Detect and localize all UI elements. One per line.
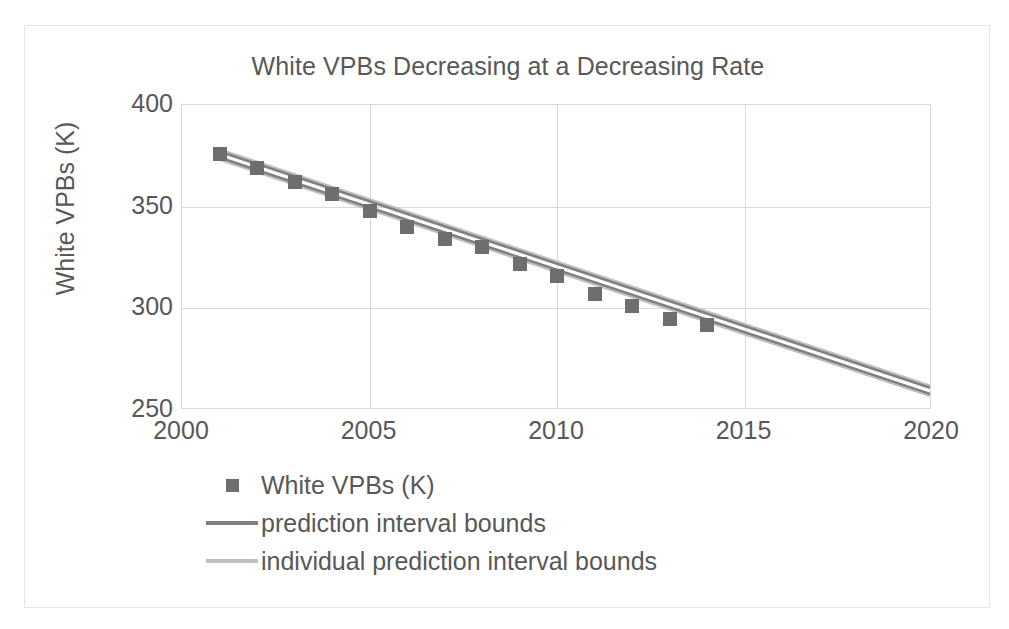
x-tick-label: 2020 (876, 418, 986, 443)
legend-label: prediction interval bounds (261, 509, 546, 538)
data-point-marker (625, 299, 639, 313)
data-point-marker (663, 312, 677, 326)
chart-container: White VPBs Decreasing at a Decreasing Ra… (24, 25, 990, 608)
y-tick-label: 300 (89, 294, 173, 319)
data-point-marker (400, 220, 414, 234)
legend-key (203, 559, 261, 563)
legend-item[interactable]: White VPBs (K) (25, 466, 991, 504)
x-tick-label: 2005 (314, 418, 424, 443)
legend-line-icon (206, 559, 258, 563)
plot-area (181, 104, 931, 409)
legend-line-icon (206, 521, 258, 525)
y-tick-label: 400 (89, 91, 173, 116)
y-axis-tick-labels: 250300350400 (67, 104, 173, 409)
data-point-marker (213, 147, 227, 161)
x-tick-label: 2010 (501, 418, 611, 443)
data-point-marker (700, 318, 714, 332)
data-point-marker (513, 257, 527, 271)
data-point-marker (250, 161, 264, 175)
legend-key (203, 479, 261, 492)
x-tick-label: 2015 (689, 418, 799, 443)
x-axis-tick-labels: 20002005201020152020 (181, 418, 931, 448)
legend-label: individual prediction interval bounds (261, 547, 657, 576)
data-point-marker (288, 175, 302, 189)
legend-square-marker-icon (226, 479, 239, 492)
data-point-marker (588, 287, 602, 301)
data-point-marker (438, 232, 452, 246)
x-tick-label: 2000 (126, 418, 236, 443)
data-point-marker (325, 187, 339, 201)
data-point-marker (475, 240, 489, 254)
data-point-marker (550, 269, 564, 283)
prediction-bound-line (219, 149, 930, 385)
y-tick-label: 350 (89, 193, 173, 218)
prediction-interval-bands (182, 105, 930, 408)
chart-legend: White VPBs (K)prediction interval bounds… (25, 466, 991, 580)
data-point-marker (363, 204, 377, 218)
legend-item[interactable]: individual prediction interval bounds (25, 542, 991, 580)
y-axis-title: White VPBs (K) (51, 74, 80, 344)
legend-key (203, 521, 261, 525)
legend-item[interactable]: prediction interval bounds (25, 504, 991, 542)
chart-title: White VPBs Decreasing at a Decreasing Ra… (25, 52, 991, 81)
legend-label: White VPBs (K) (261, 471, 435, 500)
